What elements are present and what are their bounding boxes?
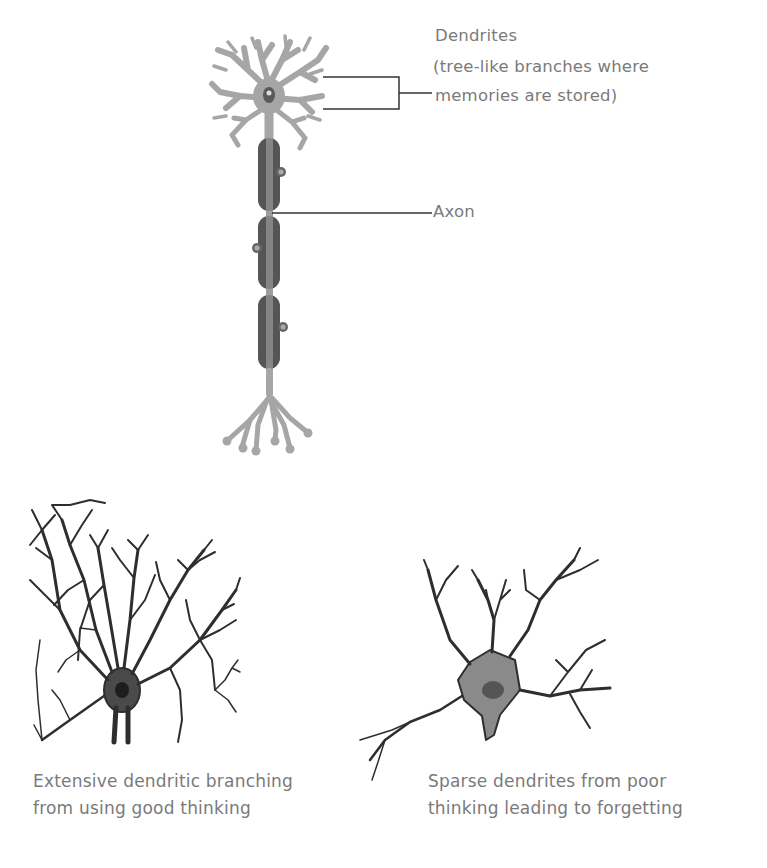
sparse-branching-caption-line1: Sparse dendrites from poor <box>428 768 666 794</box>
dendrites-description-line2: memories are stored) <box>435 84 617 108</box>
axon-label: Axon <box>433 200 475 224</box>
dendrites-description-line1: (tree-like branches where <box>433 55 649 79</box>
axon-terminals <box>228 370 307 450</box>
dendrites-bracket <box>323 77 432 109</box>
neuron-illustration <box>0 0 767 460</box>
dendrites-title: Dendrites <box>435 24 517 48</box>
sparse-branching-caption-line2: thinking leading to forgetting <box>428 795 683 821</box>
extensive-branching-caption-line2: from using good thinking <box>33 795 251 821</box>
extensive-branching-caption-line1: Extensive dendritic branching <box>33 768 293 794</box>
